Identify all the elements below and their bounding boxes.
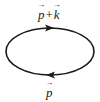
vector-p: p [38, 8, 45, 21]
momentum-label-top: p+k [38, 8, 60, 21]
vector-p: p [46, 86, 53, 99]
momentum-label-bottom: p [46, 86, 53, 99]
loop-ellipse [6, 28, 94, 75]
plus-operator: + [46, 7, 53, 22]
vector-k: k [54, 8, 60, 21]
